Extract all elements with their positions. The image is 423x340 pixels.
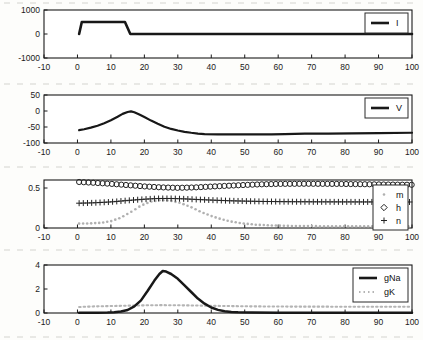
legend: I (365, 13, 408, 33)
dot-marker (238, 222, 241, 225)
dot-marker (102, 221, 105, 224)
y-tick-label: 0 (35, 106, 40, 116)
subplot-conductances-canvas: -100102030405060708090100024gNagK (0, 255, 423, 340)
x-tick-label: 60 (273, 147, 283, 157)
x-tick-label: 80 (340, 317, 350, 327)
x-tick-label: 30 (173, 62, 183, 72)
dot-marker (311, 225, 314, 228)
dot-marker (122, 215, 125, 218)
dot-marker (315, 225, 318, 228)
y-tick-label: 2 (35, 284, 40, 294)
dot-marker (90, 222, 93, 225)
y-tick-label: 0 (35, 308, 40, 318)
dot-marker (355, 225, 358, 228)
dot-marker (351, 225, 354, 228)
dot-marker (146, 202, 149, 205)
dot-marker (271, 224, 274, 227)
x-tick-label: 100 (405, 62, 419, 72)
dot-marker (78, 222, 81, 225)
dot-marker (250, 223, 253, 226)
x-tick-label: 10 (106, 62, 116, 72)
dot-marker (110, 220, 113, 223)
x-tick-label: 0 (75, 62, 80, 72)
x-tick-label: 40 (207, 62, 217, 72)
x-tick-label: 80 (340, 232, 350, 242)
x-tick-label: -10 (38, 147, 51, 157)
x-tick-label: 80 (340, 62, 350, 72)
y-tick-label: 1000 (21, 5, 40, 15)
x-tick-label: 20 (140, 317, 150, 327)
dot-marker (254, 223, 257, 226)
dot-marker (222, 218, 225, 221)
y-tick-label: 0 (35, 29, 40, 39)
dot-marker (206, 213, 209, 216)
dot-marker (307, 225, 310, 228)
dot-marker (367, 225, 370, 228)
dot-marker (295, 225, 298, 228)
x-tick-label: 60 (273, 317, 283, 327)
dot-marker (234, 221, 237, 224)
x-tick-label: 30 (173, 232, 183, 242)
x-tick-label: 100 (405, 147, 419, 157)
x-tick-label: 90 (374, 147, 384, 157)
x-tick-label: 20 (140, 232, 150, 242)
legend-swatch-m (383, 193, 386, 196)
dot-marker (331, 225, 334, 228)
x-tick-label: 0 (75, 232, 80, 242)
x-tick-label: 30 (173, 317, 183, 327)
dot-marker (114, 218, 117, 221)
subplot-conductances: -100102030405060708090100024gNagK (0, 255, 423, 340)
dot-marker (198, 210, 201, 213)
legend-label-V: V (396, 103, 402, 113)
legend-label-gK: gK (384, 287, 395, 297)
dot-marker (86, 222, 89, 225)
legend-label-gNa: gNa (384, 273, 401, 283)
x-tick-label: -10 (38, 232, 51, 242)
x-tick-label: 50 (240, 232, 250, 242)
x-tick-label: 20 (140, 62, 150, 72)
y-tick-label: 0.5 (28, 183, 40, 193)
dot-marker (299, 225, 302, 228)
dot-marker (186, 204, 189, 207)
x-tick-label: 40 (207, 147, 217, 157)
legend: mhn (373, 185, 408, 230)
dot-marker (82, 222, 85, 225)
dot-marker (363, 225, 366, 228)
dot-marker (182, 203, 185, 206)
dot-marker (279, 224, 282, 227)
dot-marker (262, 224, 265, 227)
x-tick-label: 70 (307, 147, 317, 157)
dot-marker (214, 216, 217, 219)
dot-marker (194, 208, 197, 211)
dot-marker (283, 224, 286, 227)
dot-marker (359, 225, 362, 228)
x-tick-label: 40 (207, 317, 217, 327)
x-tick-label: 90 (374, 232, 384, 242)
y-tick-label: 50 (31, 90, 41, 100)
x-tick-label: 0 (75, 147, 80, 157)
dot-marker (343, 225, 346, 228)
dot-marker (258, 224, 261, 227)
x-tick-label: 60 (273, 232, 283, 242)
dot-marker (323, 225, 326, 228)
dot-marker (335, 225, 338, 228)
subplot-gates: -10010203040506070809010000.5mhn (0, 170, 423, 255)
x-tick-label: 80 (340, 147, 350, 157)
x-tick-label: 70 (307, 62, 317, 72)
legend: V (365, 98, 408, 118)
y-tick-label: -100 (23, 138, 40, 148)
dot-marker (202, 212, 205, 215)
dot-marker (242, 222, 245, 225)
dot-marker (142, 203, 145, 206)
subplot-gates-canvas: -10010203040506070809010000.5mhn (0, 170, 423, 255)
x-tick-label: 70 (307, 232, 317, 242)
y-tick-label: -50 (28, 122, 41, 132)
x-tick-label: 30 (173, 147, 183, 157)
x-tick-label: 20 (140, 147, 150, 157)
dot-marker (246, 223, 249, 226)
x-tick-label: 10 (106, 317, 116, 327)
x-tick-label: 50 (240, 62, 250, 72)
y-tick-label: -1000 (18, 53, 40, 63)
dot-marker (327, 225, 330, 228)
dot-marker (287, 225, 290, 228)
